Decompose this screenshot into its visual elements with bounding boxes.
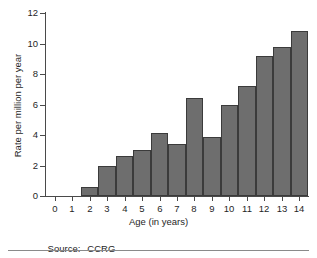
x-axis-tick-label: 3: [97, 203, 117, 214]
bar: [116, 156, 133, 196]
x-axis-tick-label: 10: [219, 203, 239, 214]
y-axis-tick: [40, 13, 45, 14]
x-axis-tick-label: 1: [62, 203, 82, 214]
x-axis-tick-label: 8: [184, 203, 204, 214]
footer-divider: [8, 250, 309, 251]
x-axis-tick: [125, 197, 126, 201]
y-axis-tick-label: 0: [8, 191, 38, 201]
bar: [273, 47, 290, 196]
y-axis-tick: [40, 135, 45, 136]
x-axis-tick: [299, 197, 300, 201]
x-axis-tick: [229, 197, 230, 201]
x-axis-tick: [90, 197, 91, 201]
bar: [98, 166, 115, 196]
source-value: CCRG: [87, 243, 115, 254]
bar: [133, 150, 150, 196]
x-axis-tick: [264, 197, 265, 201]
x-axis-tick: [160, 197, 161, 201]
bar-chart-figure: 024681012 01234567891011121314 Rate per …: [0, 0, 317, 258]
y-axis-tick-label: 12: [8, 8, 38, 18]
x-axis-tick-label: 5: [132, 203, 152, 214]
plot-area: [46, 13, 308, 196]
source-note: Source:CCRG: [37, 232, 115, 258]
x-axis-tick: [282, 197, 283, 201]
bar: [221, 105, 238, 197]
y-axis-tick: [40, 74, 45, 75]
y-axis-tick: [40, 44, 45, 45]
bar: [186, 98, 203, 196]
y-axis-tick: [40, 166, 45, 167]
bar: [151, 133, 168, 196]
x-axis-tick: [142, 197, 143, 201]
bar: [291, 31, 308, 196]
bar: [81, 187, 98, 196]
y-axis-title: Rate per million per year: [12, 26, 23, 186]
x-axis-tick: [177, 197, 178, 201]
x-axis-title: Age (in years): [0, 216, 317, 227]
x-axis-tick: [107, 197, 108, 201]
x-axis-tick: [194, 197, 195, 201]
x-axis-tick-label: 14: [289, 203, 309, 214]
x-axis-tick: [55, 197, 56, 201]
bar: [168, 144, 185, 196]
x-axis-tick: [72, 197, 73, 201]
bar: [203, 137, 220, 196]
y-axis-tick: [40, 196, 45, 197]
x-axis-tick-label: 12: [254, 203, 274, 214]
x-axis-tick: [212, 197, 213, 201]
bar: [256, 56, 273, 196]
source-label: Source:: [48, 243, 81, 254]
y-axis-tick: [40, 105, 45, 106]
x-axis-tick: [247, 197, 248, 201]
bar: [238, 86, 255, 196]
